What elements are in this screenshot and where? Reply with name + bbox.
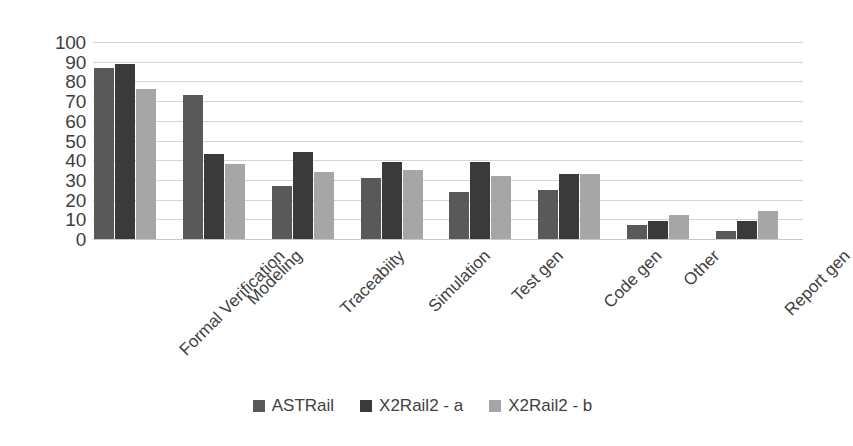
y-axis-tick-label: 50 bbox=[65, 131, 86, 150]
bar bbox=[758, 211, 778, 239]
bar bbox=[716, 231, 736, 239]
bar bbox=[538, 190, 558, 239]
bar bbox=[491, 176, 511, 239]
y-axis-tick-label: 20 bbox=[65, 190, 86, 209]
legend-swatch-icon bbox=[360, 400, 372, 412]
legend-label: X2Rail2 - a bbox=[379, 396, 463, 416]
x-axis-tick-label: Code gen bbox=[601, 247, 666, 312]
bar bbox=[627, 225, 647, 239]
legend-item[interactable]: X2Rail2 - b bbox=[489, 396, 592, 416]
bar bbox=[470, 162, 490, 239]
x-axis-tick-label: Other bbox=[680, 247, 723, 290]
x-axis: Formal VerificationModelingTraceabiitySi… bbox=[93, 239, 803, 359]
bar bbox=[204, 154, 224, 239]
bar bbox=[115, 64, 135, 239]
bar-group bbox=[538, 42, 600, 239]
bar bbox=[669, 215, 689, 239]
bar bbox=[403, 170, 423, 239]
legend-item[interactable]: X2Rail2 - a bbox=[360, 396, 463, 416]
legend-swatch-icon bbox=[253, 400, 265, 412]
legend-swatch-icon bbox=[489, 400, 501, 412]
y-axis-tick-label: 0 bbox=[76, 230, 86, 249]
x-axis-tick-label: Simulation bbox=[425, 247, 494, 316]
x-axis-tick-label: Test gen bbox=[509, 247, 567, 305]
bar-group bbox=[272, 42, 334, 239]
legend-label: ASTRail bbox=[272, 396, 334, 416]
bar bbox=[136, 89, 156, 239]
bar bbox=[580, 174, 600, 239]
x-axis-tick-label: Formal Verification bbox=[177, 247, 289, 359]
y-axis-tick-label: 80 bbox=[65, 72, 86, 91]
bar-group bbox=[361, 42, 423, 239]
plot-area bbox=[93, 42, 803, 239]
bar bbox=[737, 221, 757, 239]
legend-label: X2Rail2 - b bbox=[508, 396, 592, 416]
bar bbox=[272, 186, 292, 239]
y-axis-tick-label: 60 bbox=[65, 111, 86, 130]
y-axis-tick-label: 10 bbox=[65, 210, 86, 229]
y-axis: 0102030405060708090100 bbox=[40, 42, 86, 239]
chart-legend: ASTRailX2Rail2 - aX2Rail2 - b bbox=[0, 396, 845, 416]
bar bbox=[361, 178, 381, 239]
y-axis-tick-label: 40 bbox=[65, 151, 86, 170]
bar bbox=[314, 172, 334, 239]
bar-group bbox=[716, 42, 778, 239]
bar bbox=[559, 174, 579, 239]
bar-group bbox=[183, 42, 245, 239]
bar bbox=[382, 162, 402, 239]
bar bbox=[293, 152, 313, 239]
bar-group bbox=[627, 42, 689, 239]
bar-group bbox=[94, 42, 156, 239]
bar bbox=[183, 95, 203, 239]
legend-item[interactable]: ASTRail bbox=[253, 396, 334, 416]
y-axis-tick-label: 30 bbox=[65, 170, 86, 189]
bar bbox=[648, 221, 668, 239]
x-axis-tick-label: Traceabiity bbox=[337, 247, 408, 318]
bar bbox=[449, 192, 469, 239]
y-axis-tick-label: 90 bbox=[65, 52, 86, 71]
bar-group bbox=[449, 42, 511, 239]
bar bbox=[225, 164, 245, 239]
y-axis-tick-label: 70 bbox=[65, 92, 86, 111]
bar bbox=[94, 68, 114, 239]
y-axis-tick-label: 100 bbox=[55, 33, 86, 52]
x-axis-tick-label: Report gen bbox=[781, 247, 853, 319]
